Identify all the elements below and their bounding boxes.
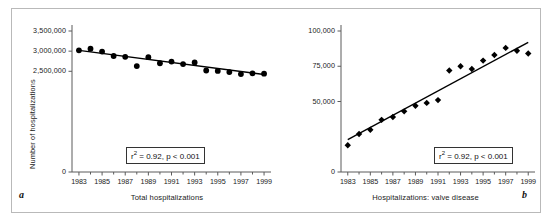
chart-panel-a: Number of hospitalizations Total hospita… — [12, 9, 278, 214]
y-tick-label: 0 — [278, 167, 335, 176]
y-tick-label: 0 — [12, 167, 66, 176]
x-tick-label: 1999 — [250, 177, 278, 186]
x-axis-title-b: Hospitalizations: valve disease — [318, 193, 533, 202]
y-tick-label: 100,000 — [278, 26, 335, 35]
chart-panel-b: Hospitalizations: valve disease r2 = 0.9… — [278, 9, 542, 214]
y-axis-title-a: Number of hospitalizations — [28, 79, 37, 169]
x-tick-label: 1999 — [514, 177, 542, 186]
y-tick-label: 75,000 — [278, 61, 335, 70]
figure-frame: Number of hospitalizations Total hospita… — [11, 8, 541, 213]
y-tick-label: 2,500,000 — [12, 66, 66, 75]
stat-annotation-b: r2 = 0.92, p < 0.001 — [434, 147, 513, 164]
figure-container: Number of hospitalizations Total hospita… — [0, 0, 552, 221]
stat-annotation-a: r2 = 0.92, p < 0.001 — [126, 147, 205, 164]
y-tick-label: 50,000 — [278, 97, 335, 106]
y-tick-label: 3,000,000 — [12, 46, 66, 55]
panel-letter-b: b — [522, 189, 527, 200]
x-axis-title-a: Total hospitalizations — [62, 193, 272, 202]
y-tick-label: 3,500,000 — [12, 26, 66, 35]
panel-letter-a: a — [19, 189, 24, 200]
